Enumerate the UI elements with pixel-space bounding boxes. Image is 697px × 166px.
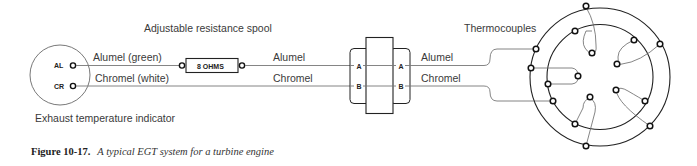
connector-pin-b-left: B	[357, 83, 362, 90]
resistance-spool-label: Adjustable resistance spool	[144, 22, 272, 34]
terminal-cr-icon	[70, 83, 75, 88]
terminal-al-label: AL	[54, 62, 64, 69]
connector-pin-a-right: A	[399, 63, 404, 70]
alumel-green-label: Alumel (green)	[93, 51, 162, 63]
thermocouple-probe-icon	[550, 98, 556, 104]
thermocouple-probe-icon	[583, 3, 589, 9]
thermocouple-probe-icon	[657, 41, 663, 47]
resistor-label: 8 OHMS	[197, 63, 224, 70]
thermocouple-harness	[528, 3, 670, 149]
connector-pin-b-right: B	[399, 83, 404, 90]
chromel-wire-right	[410, 86, 550, 101]
resistor-terminal-left-icon	[179, 63, 184, 68]
connector-plug	[350, 38, 410, 114]
thermocouple-probe-icon	[528, 65, 534, 71]
thermocouple-probe-icon	[647, 123, 653, 129]
thermocouple-probe-icon	[587, 94, 593, 100]
middle-chromel-label: Chromel	[273, 72, 313, 84]
thermocouple-probe-icon	[533, 46, 539, 52]
thermocouple-probe-icon	[583, 143, 589, 149]
connector-pin-a-left: A	[357, 63, 362, 70]
right-alumel-label: Alumel	[421, 51, 453, 63]
thermocouple-probe-icon	[572, 28, 578, 34]
middle-alumel-label: Alumel	[273, 51, 305, 63]
terminal-cr-label: CR	[54, 83, 64, 90]
thermocouples-label: Thermocouples	[464, 22, 536, 34]
thermocouple-probe-icon	[572, 121, 578, 127]
thermocouple-probe-icon	[631, 37, 637, 43]
figure-caption: Figure 10-17. A typical EGT system for a…	[31, 141, 274, 158]
terminal-al-icon	[70, 63, 75, 68]
indicator-label: Exhaust temperature indicator	[35, 112, 176, 124]
thermocouple-probe-icon	[545, 81, 551, 87]
egt-system-diagram: Adjustable resistance spool AL CR Exhaus…	[0, 0, 697, 166]
figure-number: Figure 10-17.	[31, 146, 91, 157]
thermocouple-probe-icon	[614, 61, 620, 67]
thermocouple-probe-icon	[613, 87, 619, 93]
right-chromel-label: Chromel	[421, 72, 461, 84]
thermocouple-probe-icon	[642, 98, 648, 104]
resistor-terminal-right-icon	[239, 63, 244, 68]
figure-caption-text: A typical EGT system for a turbine engin…	[96, 146, 274, 157]
chromel-white-label: Chromel (white)	[95, 72, 169, 84]
indicator-gauge-circle	[30, 45, 90, 105]
thermocouple-probe-icon	[575, 73, 581, 79]
thermocouple-probe-icon	[589, 50, 595, 56]
